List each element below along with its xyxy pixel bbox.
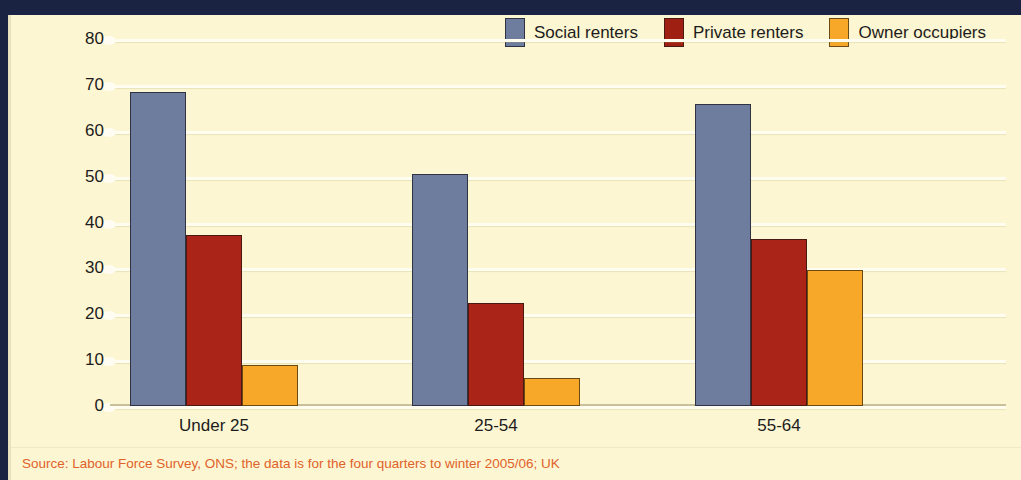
top-border-band: [0, 0, 1021, 15]
chart-figure: For each combination of age group and te…: [0, 0, 1021, 480]
y-tick-mark-80: [102, 36, 116, 45]
y-tick-label-40: 40: [44, 214, 104, 231]
bar-social-under-25[interactable]: [130, 92, 186, 406]
source-note: Source: Labour Force Survey, ONS; the da…: [22, 456, 560, 471]
x-category-label-0: Under 25: [114, 416, 314, 436]
y-tick-label-80: 80: [44, 30, 104, 47]
footer-divider: [11, 447, 1021, 448]
bar-group-under-25: [130, 39, 298, 406]
bar-private-25-54[interactable]: [468, 303, 524, 406]
bar-owner-55-64[interactable]: [807, 270, 863, 406]
left-inner-rule: [8, 15, 11, 480]
y-tick-mark-10: [102, 357, 116, 366]
x-category-label-1: 25-54: [396, 416, 596, 436]
bar-owner-25-54[interactable]: [524, 378, 580, 406]
bar-private-under-25[interactable]: [186, 235, 242, 406]
y-tick-label-20: 20: [44, 305, 104, 322]
plot-area: 01020304050607080 Under 2525-5455-64: [110, 39, 1006, 406]
bar-group-25-54: [412, 39, 580, 406]
gridline-0: [110, 406, 1006, 409]
bar-social-25-54[interactable]: [412, 174, 468, 406]
y-tick-label-60: 60: [44, 122, 104, 139]
bar-group-55-64: [695, 39, 863, 406]
left-border-band: [0, 0, 8, 480]
y-tick-label-0: 0: [44, 397, 104, 414]
y-tick-label-50: 50: [44, 168, 104, 185]
y-tick-mark-50: [102, 174, 116, 183]
y-tick-label-70: 70: [44, 76, 104, 93]
y-tick-label-30: 30: [44, 259, 104, 276]
bar-social-55-64[interactable]: [695, 104, 751, 406]
bar-owner-under-25[interactable]: [242, 365, 298, 406]
x-category-label-2: 55-64: [679, 416, 879, 436]
y-tick-mark-40: [102, 220, 116, 229]
bar-private-55-64[interactable]: [751, 239, 807, 406]
y-tick-mark-30: [102, 265, 116, 274]
y-tick-mark-70: [102, 82, 116, 91]
y-tick-mark-20: [102, 311, 116, 320]
y-tick-mark-60: [102, 128, 116, 137]
y-tick-label-10: 10: [44, 351, 104, 368]
